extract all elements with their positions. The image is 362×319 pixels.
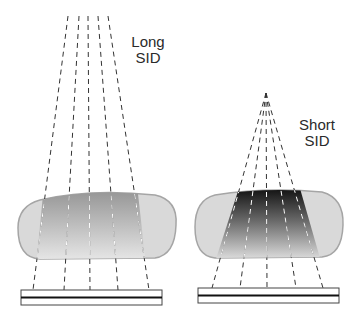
film-long bbox=[21, 290, 162, 305]
sid-diagram bbox=[0, 0, 362, 319]
short-sid-label: Short SID bbox=[295, 117, 339, 149]
short-sid-label-line2: SID bbox=[295, 133, 339, 149]
long-sid-label-line1: Long bbox=[128, 34, 168, 50]
long-sid-label: Long SID bbox=[128, 34, 168, 66]
film-short bbox=[198, 288, 339, 303]
short-sid-label-line1: Short bbox=[295, 117, 339, 133]
long-sid-label-line2: SID bbox=[128, 50, 168, 66]
